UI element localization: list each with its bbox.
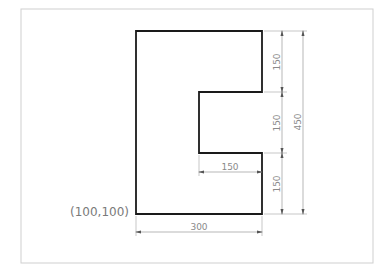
dim-top-segment-label: 150	[272, 53, 282, 70]
dim-notch-depth-label: 150	[221, 162, 238, 172]
origin-coordinate-label: (100,100)	[70, 205, 129, 219]
dim-base-width-label: 300	[190, 222, 207, 232]
dim-total-height-label: 450	[293, 113, 303, 130]
c-shape-outline	[136, 31, 262, 214]
dim-bottom-segment-label: 150	[272, 175, 282, 192]
cad-drawing-canvas: 150 150 150 450 150 300 (100,100)	[0, 0, 392, 277]
dim-middle-segment-label: 150	[272, 114, 282, 131]
